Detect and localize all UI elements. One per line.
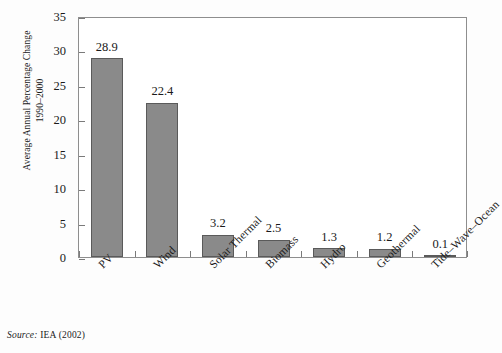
x-axis-tick	[357, 251, 358, 257]
x-axis-tick	[246, 251, 247, 257]
y-axis-tick-label: 20	[54, 114, 67, 127]
x-axis-tick	[135, 251, 136, 257]
bar-value-label: 1.3	[321, 231, 337, 244]
bar-value-label: 28.9	[96, 41, 118, 54]
y-axis-tick-label: 10	[54, 183, 67, 196]
x-axis-tick	[79, 251, 80, 257]
y-axis-tick	[79, 190, 85, 191]
bar	[91, 58, 123, 257]
y-axis-tick	[79, 121, 85, 122]
x-axis-tick	[467, 251, 468, 257]
y-axis-tick-label: 25	[54, 80, 67, 93]
x-axis-tick-labels: PVWindSolar ThermalBiomassHydroGeotherma…	[78, 258, 467, 353]
x-axis-tick	[412, 251, 413, 257]
source-note: Source: IEA (2002)	[7, 329, 85, 341]
plot-area: 28.922.43.22.51.31.20.1	[78, 17, 467, 258]
y-axis-tick	[79, 156, 85, 157]
y-axis-tick-label: 35	[54, 11, 67, 24]
source-note-label: Source:	[7, 330, 38, 340]
y-axis-tick-label: 30	[54, 45, 67, 58]
y-axis-tick	[79, 52, 85, 53]
y-axis-tick-label: 0	[60, 252, 66, 265]
x-axis-tick	[190, 251, 191, 257]
bar-value-label: 22.4	[151, 85, 173, 98]
y-axis-tick-label: 5	[60, 217, 66, 230]
y-axis-tick	[79, 225, 85, 226]
y-axis-tick-label: 15	[54, 148, 67, 161]
x-axis-tick	[301, 251, 302, 257]
bar-value-label: 3.2	[210, 217, 226, 230]
source-note-text: IEA (2002)	[40, 330, 85, 340]
bar-value-label: 1.2	[377, 231, 393, 244]
y-axis-tick	[79, 87, 85, 88]
y-axis-tick	[79, 18, 85, 19]
bar	[146, 103, 178, 257]
bar-value-label: 2.5	[266, 222, 282, 235]
y-axis-tick-labels: 05101520253035	[0, 0, 74, 353]
